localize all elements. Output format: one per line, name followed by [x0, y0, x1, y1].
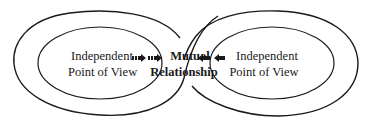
- center-label-line2: Relationship: [150, 64, 218, 80]
- left-label-line2: Point of View: [68, 64, 133, 80]
- center-label: Mutual Relationship: [150, 48, 218, 80]
- center-label-line1: Mutual: [150, 48, 218, 64]
- left-label: Independent Point of View: [71, 48, 133, 80]
- right-label-line2: Point of View: [228, 64, 300, 80]
- right-label: Independent Point of View: [228, 48, 300, 80]
- left-label-line1: Independent: [71, 48, 133, 64]
- right-label-line1: Independent: [228, 48, 300, 64]
